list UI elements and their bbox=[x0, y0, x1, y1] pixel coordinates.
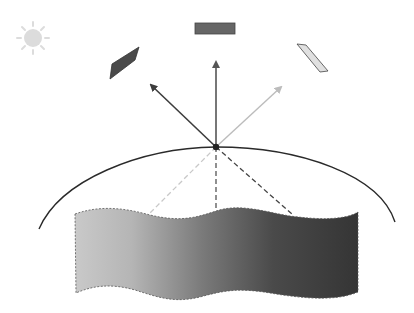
right-arrow bbox=[216, 87, 281, 147]
right-dashed-line bbox=[216, 147, 293, 215]
left-dashed-line bbox=[149, 147, 216, 214]
gradient-surface bbox=[75, 208, 358, 300]
left-panel bbox=[110, 47, 139, 79]
top-panel bbox=[195, 23, 235, 34]
left-arrow bbox=[151, 85, 216, 147]
reflection-diagram bbox=[0, 0, 414, 313]
sun-icon bbox=[17, 22, 49, 54]
right-panel bbox=[297, 44, 328, 72]
reflection-point bbox=[213, 144, 219, 150]
